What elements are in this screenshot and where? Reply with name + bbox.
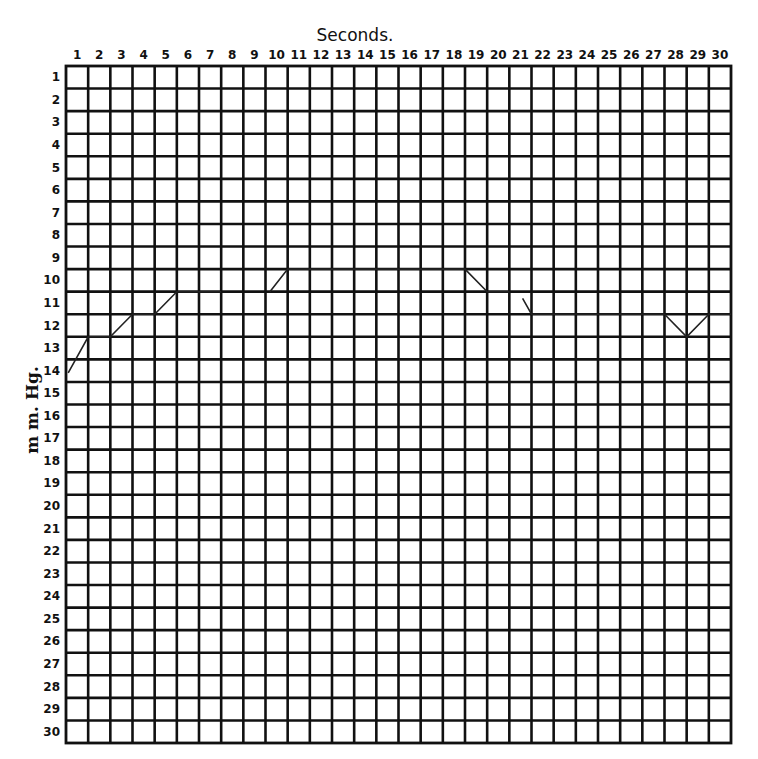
y-axis-label: m m. Hg. — [22, 366, 42, 454]
x-tick-label: 19 — [468, 48, 485, 62]
x-tick-label: 6 — [184, 48, 192, 62]
x-tick-label: 27 — [645, 48, 662, 62]
y-axis-ticks: 1234567891011121314151617181920212223242… — [43, 70, 60, 738]
y-tick-label: 11 — [43, 296, 60, 310]
x-tick-label: 4 — [139, 48, 147, 62]
x-tick-label: 29 — [689, 48, 706, 62]
x-tick-label: 17 — [423, 48, 440, 62]
x-tick-label: 23 — [556, 48, 573, 62]
y-tick-label: 4 — [52, 138, 60, 152]
y-tick-label: 13 — [43, 341, 60, 355]
x-tick-label: 22 — [534, 48, 551, 62]
y-tick-label: 6 — [52, 183, 60, 197]
x-tick-label: 28 — [667, 48, 684, 62]
x-tick-label: 8 — [228, 48, 236, 62]
y-tick-label: 21 — [43, 522, 60, 536]
y-tick-label: 1 — [52, 70, 60, 84]
y-tick-label: 20 — [43, 499, 60, 513]
y-tick-label: 26 — [43, 634, 60, 648]
y-tick-label: 10 — [43, 273, 60, 287]
y-tick-label: 22 — [43, 544, 60, 558]
y-tick-label: 29 — [43, 702, 60, 716]
x-tick-label: 14 — [357, 48, 374, 62]
x-tick-label: 15 — [379, 48, 396, 62]
x-tick-label: 26 — [623, 48, 640, 62]
y-tick-label: 16 — [43, 409, 60, 423]
chart: Seconds. 1234567891011121314151617181920… — [0, 0, 758, 759]
y-tick-label: 8 — [52, 228, 60, 242]
x-tick-label: 5 — [162, 48, 170, 62]
y-tick-label: 14 — [43, 364, 60, 378]
x-tick-label: 3 — [117, 48, 125, 62]
y-tick-label: 7 — [52, 206, 60, 220]
x-axis-ticks: 1234567891011121314151617181920212223242… — [73, 48, 728, 62]
y-tick-label: 18 — [43, 454, 60, 468]
y-tick-label: 2 — [52, 93, 60, 107]
x-tick-label: 9 — [250, 48, 258, 62]
x-tick-label: 10 — [268, 48, 285, 62]
x-tick-label: 30 — [712, 48, 729, 62]
x-tick-label: 1 — [73, 48, 81, 62]
trace-line — [270, 269, 509, 292]
grid-lines — [66, 66, 731, 743]
x-tick-label: 13 — [335, 48, 352, 62]
x-tick-label: 21 — [512, 48, 529, 62]
y-tick-label: 27 — [43, 657, 60, 671]
y-tick-label: 5 — [52, 161, 60, 175]
x-tick-label: 12 — [313, 48, 330, 62]
y-tick-label: 30 — [43, 725, 60, 739]
y-tick-label: 23 — [43, 567, 60, 581]
y-tick-label: 19 — [43, 476, 60, 490]
x-tick-label: 20 — [490, 48, 507, 62]
x-tick-label: 16 — [401, 48, 418, 62]
y-tick-label: 24 — [43, 589, 60, 603]
x-tick-label: 11 — [290, 48, 307, 62]
y-tick-label: 25 — [43, 612, 60, 626]
y-tick-label: 12 — [43, 319, 60, 333]
y-tick-label: 17 — [43, 431, 60, 445]
x-tick-label: 2 — [95, 48, 103, 62]
y-tick-label: 3 — [52, 115, 60, 129]
x-tick-label: 25 — [601, 48, 618, 62]
x-tick-label: 18 — [446, 48, 463, 62]
y-tick-label: 28 — [43, 680, 60, 694]
y-tick-label: 9 — [52, 251, 60, 265]
x-tick-label: 24 — [579, 48, 596, 62]
x-tick-label: 7 — [206, 48, 214, 62]
chart-title: Seconds. — [317, 25, 394, 45]
y-tick-label: 15 — [43, 386, 60, 400]
